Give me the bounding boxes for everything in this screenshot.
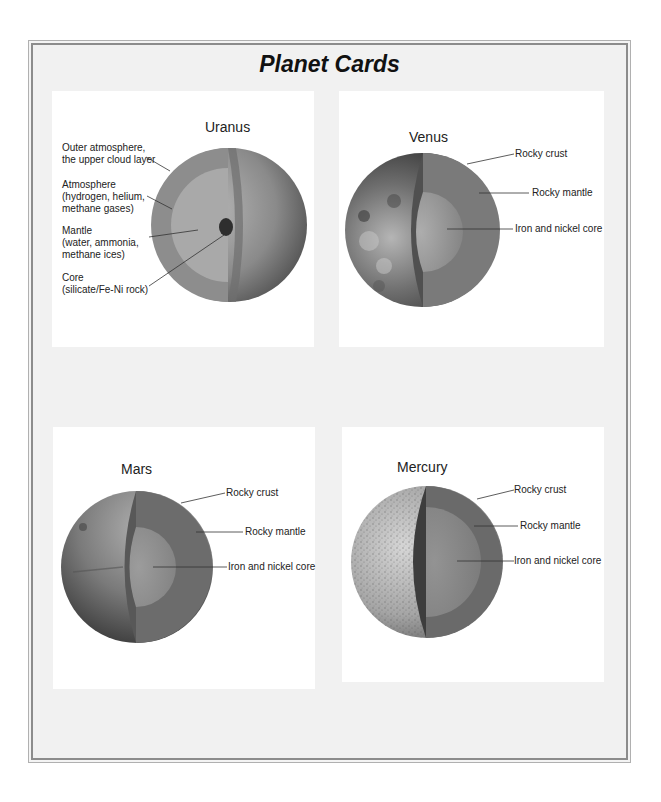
label-outer-atmosphere: Outer atmosphere, the upper cloud layer [62,142,155,166]
label-iron-nickel-core: Iron and nickel core [228,561,315,573]
label-rocky-mantle: Rocky mantle [245,526,306,538]
mars-cutaway-diagram [53,427,315,689]
label-rocky-crust: Rocky crust [226,487,278,499]
label-iron-nickel-core: Iron and nickel core [514,555,601,567]
label-rocky-crust: Rocky crust [514,484,566,496]
planet-name: Mercury [397,459,448,475]
planet-card-mercury: Mercury Rocky crust Rocky mantle Iron an… [342,427,604,682]
label-core: Core (silicate/Fe-Ni rock) [62,272,148,296]
label-atmosphere: Atmosphere (hydrogen, helium, methane ga… [62,179,145,215]
planet-name: Mars [121,461,152,477]
planet-card-mars: Mars Rocky crust Rocky mantle Iron and n… [53,427,315,689]
label-rocky-mantle: Rocky mantle [532,187,593,199]
label-mantle: Mantle (water, ammonia, methane ices) [62,225,139,261]
planet-card-uranus: Uranus Outer atmosphere, the upper cloud… [52,91,314,347]
planet-name: Venus [409,129,448,145]
label-rocky-crust: Rocky crust [515,148,567,160]
planet-card-venus: Venus Rocky crust Rocky mantle Iron and … [339,91,604,347]
uranus-cutaway-diagram [52,91,314,347]
label-rocky-mantle: Rocky mantle [520,520,581,532]
label-iron-nickel-core: Iron and nickel core [515,223,602,235]
venus-cutaway-diagram [339,91,604,347]
page-title: Planet Cards [33,51,626,78]
planet-name: Uranus [205,119,250,135]
